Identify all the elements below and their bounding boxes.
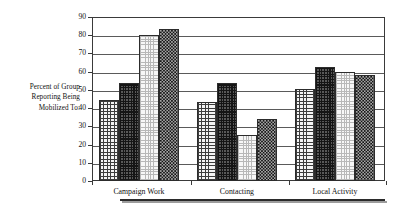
x-category-label-2: Local Activity bbox=[290, 187, 380, 196]
bar bbox=[159, 29, 179, 181]
y-axis-caption-line-2: Reporting Being bbox=[8, 92, 80, 102]
bars-layer bbox=[92, 17, 385, 181]
x-tick-mark-3 bbox=[386, 181, 387, 185]
y-tick-label-80: 80 bbox=[64, 31, 86, 39]
y-tick-label-20: 20 bbox=[64, 141, 86, 149]
bar bbox=[217, 83, 237, 181]
bar bbox=[197, 102, 217, 181]
y-tick-label-0: 0 bbox=[64, 177, 86, 185]
bar bbox=[119, 83, 139, 181]
x-category-label-1: Contacting bbox=[192, 187, 282, 196]
bottom-rule-shadow bbox=[122, 201, 387, 203]
x-tick-mark-1 bbox=[191, 181, 192, 185]
y-tick-label-50: 50 bbox=[64, 86, 86, 94]
bottom-rule bbox=[120, 199, 385, 201]
bar bbox=[237, 135, 257, 181]
chart-page: Percent of Group Reporting Being Mobiliz… bbox=[0, 0, 399, 209]
bar bbox=[99, 100, 119, 181]
y-tick-label-90: 90 bbox=[64, 13, 86, 21]
y-tick-label-70: 70 bbox=[64, 49, 86, 57]
bar bbox=[257, 119, 277, 181]
y-tick-label-30: 30 bbox=[64, 122, 86, 130]
y-tick-label-10: 10 bbox=[64, 159, 86, 167]
x-tick-mark-2 bbox=[289, 181, 290, 185]
bar bbox=[139, 35, 159, 181]
bar bbox=[295, 89, 315, 181]
bar bbox=[335, 72, 355, 181]
x-category-label-0: Campaign Work bbox=[94, 187, 184, 196]
bar bbox=[355, 75, 375, 181]
y-tick-label-40: 40 bbox=[64, 104, 86, 112]
bar bbox=[315, 67, 335, 181]
y-tick-label-60: 60 bbox=[64, 68, 86, 76]
x-tick-mark-0 bbox=[92, 181, 93, 185]
